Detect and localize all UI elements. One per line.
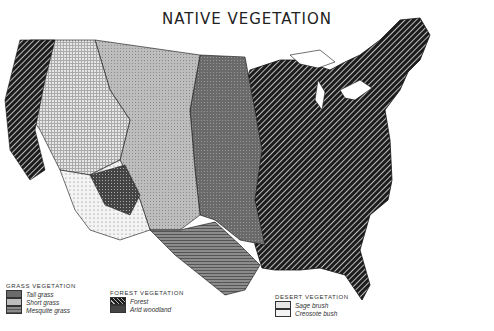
mesquite-grass-swatch <box>6 306 22 314</box>
legend-forest: FOREST VEGETATION Forest Arid woodland <box>110 290 184 313</box>
legend-label: Sage brush <box>295 302 328 309</box>
legend-label: Tall grass <box>26 291 54 298</box>
legend-label: Creosote bush <box>295 310 337 317</box>
legend-heading: GRASS VEGETATION <box>6 283 76 289</box>
legend-label: Forest <box>130 298 148 305</box>
us-vegetation-map <box>0 0 494 331</box>
short-grass-swatch <box>6 298 22 306</box>
legend-item: Tall grass <box>6 290 76 298</box>
legend-item: Short grass <box>6 298 76 306</box>
legend-label: Arid woodland <box>130 306 171 313</box>
legend-heading: FOREST VEGETATION <box>110 290 184 296</box>
legend-item: Forest <box>110 297 184 305</box>
sage-brush-swatch <box>275 301 291 309</box>
legend-desert: DESERT VEGETATION Sage brush Creosote bu… <box>275 294 349 317</box>
legend-item: Arid woodland <box>110 305 184 313</box>
legend-heading: DESERT VEGETATION <box>275 294 349 300</box>
creosote-bush-swatch <box>275 309 291 317</box>
legend-item: Mesquite grass <box>6 306 76 314</box>
legend-label: Mesquite grass <box>26 307 70 314</box>
legend-label: Short grass <box>26 299 59 306</box>
east-forest-region <box>240 18 430 300</box>
legend-item: Creosote bush <box>275 309 349 317</box>
legend-item: Sage brush <box>275 301 349 309</box>
forest-swatch <box>110 297 126 305</box>
arid-woodland-swatch <box>110 305 126 313</box>
legend-grass: GRASS VEGETATION Tall grass Short grass … <box>6 283 76 314</box>
tall-grass-swatch <box>6 290 22 298</box>
